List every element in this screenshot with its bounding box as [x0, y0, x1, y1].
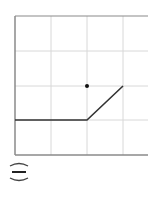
choice-label-icon — [6, 160, 32, 184]
grid-lines — [15, 16, 148, 155]
point-marker — [85, 84, 89, 88]
piecewise-line — [15, 86, 123, 120]
